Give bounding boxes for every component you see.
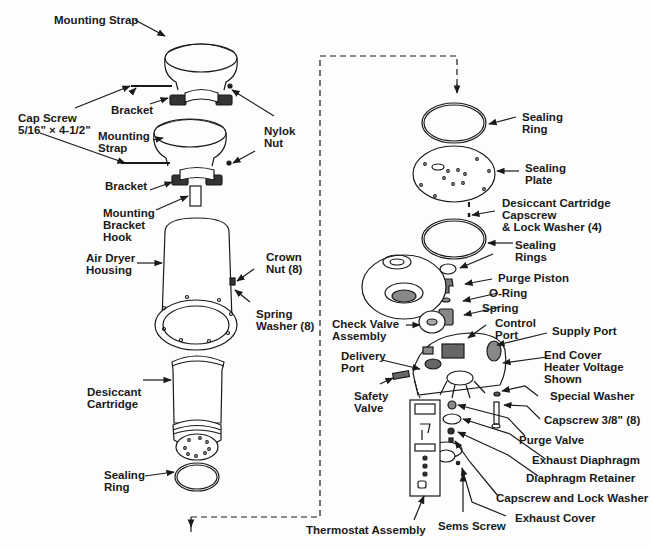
label-cap-screw: Cap Screw 5/16" × 4-1/2" <box>18 112 91 136</box>
thermostat-assembly <box>410 400 440 496</box>
label-supply-port: Supply Port <box>552 325 617 337</box>
air-dryer-housing <box>155 218 237 350</box>
label-bracket-lower: Bracket <box>105 180 147 192</box>
label-air-dryer-housing: Air Dryer Housing <box>86 252 135 276</box>
label-o-ring: O-Ring <box>489 287 527 299</box>
label-thermostat-assembly: Thermostat Assembly <box>306 524 426 536</box>
label-mounting-strap-lower: Mounting Strap <box>98 130 150 154</box>
sealing-rings <box>422 219 486 259</box>
diaphragm-retainer <box>448 428 454 434</box>
label-capscrew-38: Capscrew 3/8" (8) <box>544 414 640 426</box>
desiccant-cartridge <box>172 356 224 460</box>
label-delivery-port: Delivery Port <box>341 350 386 374</box>
label-safety-valve: Safety Valve <box>354 390 389 414</box>
purge-valve <box>448 401 456 409</box>
label-purge-valve: Purge Valve <box>519 434 584 446</box>
sealing-plate <box>413 146 495 202</box>
label-desiccant-capscrew: Desiccant Cartridge Capscrew & Lock Wash… <box>502 197 611 233</box>
label-sealing-ring-top: Sealing Ring <box>522 111 563 135</box>
label-exhaust-cover: Exhaust Cover <box>515 512 596 524</box>
end-cover <box>413 333 506 398</box>
label-sealing-plate: Sealing Plate <box>525 162 566 186</box>
air-dryer-exploded-diagram: Mounting Strap Cap Screw 5/16" × 4-1/2" … <box>0 0 652 549</box>
sealing-ring-top <box>422 103 486 143</box>
label-mounting-bracket-hook: Mounting Bracket Hook <box>103 207 155 243</box>
label-sealing-rings: Sealing Rings <box>515 239 556 263</box>
label-capscrew-lock-washer: Capscrew and Lock Washer <box>496 492 648 504</box>
label-spring: Spring <box>482 302 518 314</box>
label-crown-nut: Crown Nut (8) <box>266 251 302 275</box>
label-purge-piston: Purge Piston <box>498 272 569 284</box>
safety-valve <box>393 371 410 380</box>
label-check-valve-assembly: Check Valve Assembly <box>332 318 399 342</box>
label-end-cover: End Cover Heater Voltage Shown <box>544 349 624 385</box>
label-desiccant-cartridge: Desiccant Cartridge <box>87 386 141 410</box>
label-bracket-top: Bracket <box>111 104 153 116</box>
label-diaphragm-retainer: Diaphragm Retainer <box>526 472 635 484</box>
sealing-ring-bottom <box>175 463 219 491</box>
label-exhaust-diaphragm: Exhaust Diaphragm <box>532 454 640 466</box>
label-sems-screw: Sems Screw <box>438 520 506 532</box>
label-sealing-ring-bottom: Sealing Ring <box>104 469 145 493</box>
label-special-washer: Special Washer <box>550 390 635 402</box>
label-nylok-nut: Nylok Nut <box>264 125 295 149</box>
mounting-strap-top <box>165 44 238 105</box>
leader-lines <box>40 20 274 476</box>
exhaust-diaphragm <box>443 414 461 424</box>
label-spring-washer: Spring Washer (8) <box>256 308 314 332</box>
label-mounting-strap-top: Mounting Strap <box>54 14 138 26</box>
label-control-port: Control Port <box>495 317 536 341</box>
